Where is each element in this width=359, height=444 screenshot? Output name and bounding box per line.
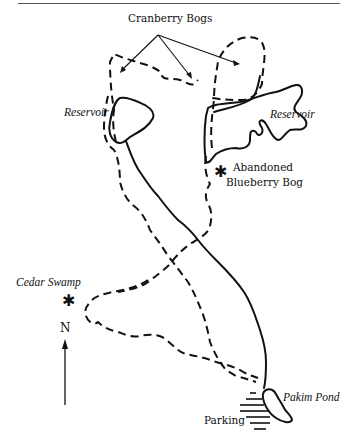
east-reservoir-label: Reservoir [270, 108, 315, 120]
trail-map: ✱ ✱ [0, 0, 359, 444]
abandoned-bog-label-line1: Abandoned [233, 161, 293, 173]
west-reservoir-outline [109, 98, 153, 143]
abandoned-bog-label-line2: Blueberry Bog [226, 176, 303, 188]
parking-label: Parking [204, 414, 245, 426]
north-arrow-icon [62, 339, 68, 405]
east-reservoir-outline [205, 85, 307, 162]
cranberry-bogs-label: Cranberry Bogs [128, 12, 212, 24]
east-reservoir-inner-shore [214, 76, 260, 112]
cranberry-bogs-arrows [120, 35, 240, 79]
west-reservoir-label: Reservoir [64, 106, 109, 118]
cedar-swamp-marker-icon: ✱ [62, 291, 75, 310]
cedar-swamp-label: Cedar Swamp [16, 276, 81, 288]
trail-east-descent [118, 156, 211, 292]
pakim-pond-label: Pakim Pond [283, 391, 340, 403]
north-label: N [60, 322, 71, 334]
trail-cedar-swamp-loop [85, 280, 258, 378]
